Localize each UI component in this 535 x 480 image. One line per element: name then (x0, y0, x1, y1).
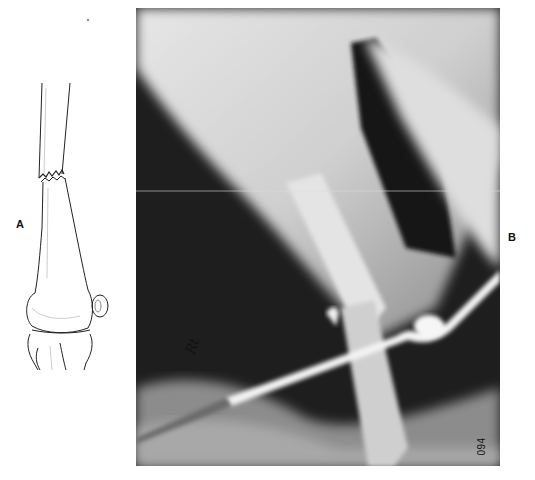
panel-label-a: A (16, 218, 24, 230)
femur-fracture-drawing (20, 78, 120, 370)
panel-label-b: B (508, 231, 516, 243)
radiograph-image: Rt 094 (136, 8, 500, 466)
film-number: 094 (475, 437, 486, 455)
stray-mark (87, 19, 89, 21)
